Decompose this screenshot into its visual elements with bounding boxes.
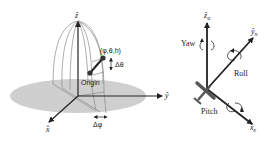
- diagram-graphics: [0, 0, 274, 144]
- z-axis-label: ẑ: [75, 12, 78, 20]
- north-axis-subscript: n: [255, 31, 258, 37]
- origin-point: [87, 70, 92, 75]
- x-axis-label: x̂: [46, 126, 50, 134]
- roll-label: Roll: [234, 70, 248, 78]
- aircraft-icon: [194, 83, 214, 104]
- yaw-label: Yaw: [181, 40, 195, 48]
- up-axis-label: ẑu: [204, 12, 210, 21]
- east-axis-label: x̂e: [250, 124, 256, 133]
- north-axis-label: ŷn: [251, 28, 258, 37]
- delta-phi-label: Δφ: [93, 121, 102, 128]
- east-axis-subscript: e: [254, 127, 257, 133]
- spherical-coordinate-figure: [10, 21, 162, 122]
- y-axis-label: ŷ: [165, 92, 169, 100]
- position-point: [100, 55, 105, 60]
- delta-theta-label: Δθ: [115, 61, 124, 68]
- coordinate-diagram: ẑ ŷ x̂ (φ,θ,h) Δθ Origin Δφ ẑu ŷn x̂e Ya…: [0, 0, 274, 144]
- pitch-label: Pitch: [201, 108, 217, 116]
- origin-label: Origin: [81, 79, 100, 86]
- up-axis-subscript: u: [207, 15, 210, 21]
- point-coordinate-label: (φ,θ,h): [100, 47, 121, 54]
